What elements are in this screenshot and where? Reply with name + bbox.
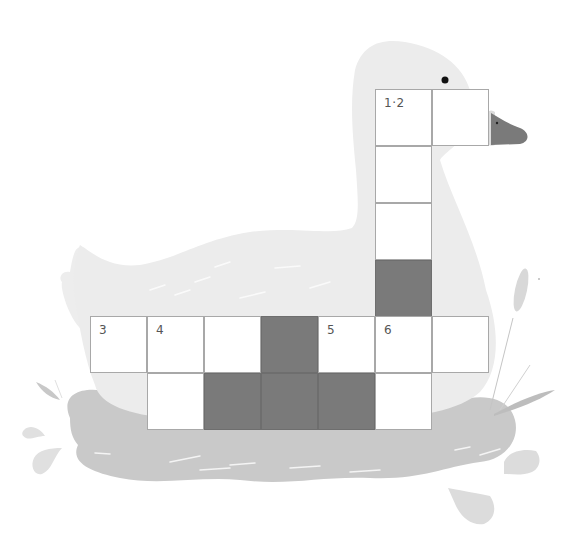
clue-number: 4 <box>156 323 164 337</box>
blocked-cell <box>261 316 318 373</box>
answer-cell[interactable]: 4 <box>147 316 204 373</box>
answer-cell[interactable]: 6 <box>375 316 432 373</box>
answer-cell[interactable] <box>375 203 432 260</box>
clue-number: 6 <box>384 323 392 337</box>
answer-cell[interactable] <box>204 316 261 373</box>
crossword-grid: 1·23456 <box>0 0 574 549</box>
answer-cell[interactable] <box>375 146 432 203</box>
clue-number: 1·2 <box>384 96 405 110</box>
answer-cell[interactable] <box>432 316 489 373</box>
answer-cell[interactable] <box>375 373 432 430</box>
answer-cell[interactable]: 1·2 <box>375 89 432 146</box>
clue-number: 3 <box>99 323 107 337</box>
answer-cell[interactable]: 3 <box>90 316 147 373</box>
clue-number: 5 <box>327 323 335 337</box>
blocked-cell <box>261 373 318 430</box>
blocked-cell <box>204 373 261 430</box>
answer-cell[interactable] <box>147 373 204 430</box>
answer-cell[interactable] <box>432 89 489 146</box>
answer-cell[interactable]: 5 <box>318 316 375 373</box>
blocked-cell <box>318 373 375 430</box>
blocked-cell <box>375 260 432 317</box>
